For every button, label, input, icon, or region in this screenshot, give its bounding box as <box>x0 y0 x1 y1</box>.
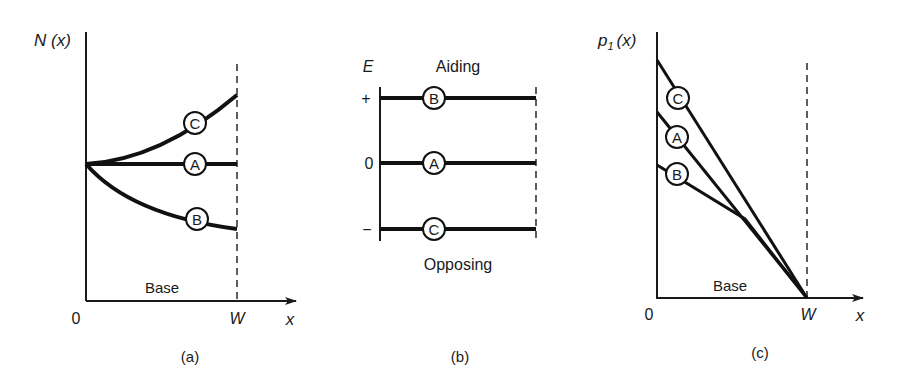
line-c-label: C <box>667 87 689 109</box>
opposing-label: Opposing <box>424 256 493 273</box>
figure: N (x) C A B Base 0 W x (a) E Aiding <box>0 0 899 383</box>
line-b-label: B <box>666 163 688 185</box>
curve-c <box>86 95 237 164</box>
curve-c-label: C <box>184 112 206 134</box>
svg-text:B: B <box>672 166 682 183</box>
svg-text:C: C <box>673 90 684 107</box>
svg-text:C: C <box>190 115 201 132</box>
width-label: W <box>229 310 246 327</box>
svg-text:B: B <box>192 211 202 228</box>
svg-text:A: A <box>190 156 200 173</box>
x-axis-label: x <box>285 310 295 329</box>
level-c-label: C <box>423 218 445 240</box>
tick-zero: 0 <box>365 155 374 172</box>
curve-a-label: A <box>184 153 206 175</box>
panel-a: N (x) C A B Base 0 W x (a) <box>34 31 296 365</box>
svg-text:C: C <box>429 221 440 238</box>
level-b-label: B <box>423 87 445 109</box>
caption: (a) <box>181 348 199 365</box>
curve-b-label: B <box>186 208 208 230</box>
svg-text:A: A <box>429 155 439 172</box>
y-axis-label: E <box>363 58 374 75</box>
origin-label: 0 <box>645 306 654 323</box>
svg-text:A: A <box>672 129 682 146</box>
origin-label: 0 <box>72 310 81 327</box>
svg-text:B: B <box>429 90 439 107</box>
base-label: Base <box>145 279 179 296</box>
panel-c: p1(x) C A B Base 0 W x (c) <box>597 31 865 361</box>
tick-plus: + <box>361 90 370 107</box>
y-axis-label: N (x) <box>34 31 71 50</box>
caption: (b) <box>451 348 469 365</box>
caption: (c) <box>751 344 769 361</box>
panel-b: E Aiding + B 0 A − C Opposing (b) <box>361 58 536 365</box>
aiding-label: Aiding <box>436 58 480 75</box>
curve-b <box>86 164 237 229</box>
y-axis-label: p1(x) <box>597 31 636 52</box>
x-axis-label: x <box>855 306 865 325</box>
tick-minus: − <box>362 221 371 238</box>
line-a-label: A <box>666 126 688 148</box>
width-label: W <box>800 306 817 323</box>
level-a-label: A <box>423 152 445 174</box>
base-label: Base <box>713 277 747 294</box>
